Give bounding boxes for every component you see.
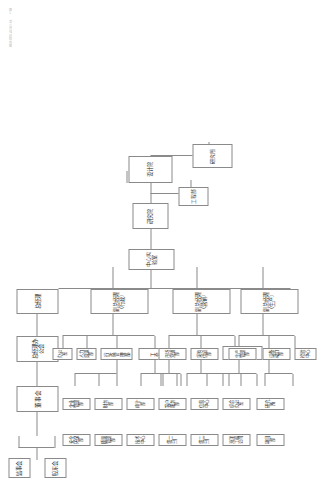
- node-box[interactable]: 第一分厂: [158, 434, 186, 446]
- connector: [264, 373, 292, 374]
- node-label: 技术中心: [135, 435, 145, 445]
- node-box[interactable]: 客户服务部: [158, 398, 186, 410]
- node-label: 安全环保部: [69, 435, 84, 445]
- connector: [160, 374, 161, 386]
- node-box[interactable]: 监事会: [8, 458, 30, 478]
- connector: [150, 229, 151, 249]
- node-box[interactable]: 综合办公室: [222, 398, 250, 410]
- node-box[interactable]: 副总经理（营销）: [172, 289, 230, 314]
- node-box[interactable]: 财务部: [94, 398, 122, 410]
- node-box[interactable]: 质量管理部: [94, 434, 122, 446]
- node-label: 总经理办公会: [31, 337, 43, 361]
- connector: [18, 436, 19, 448]
- node-box[interactable]: 工程部: [178, 187, 208, 206]
- node-label: 企业管理部: [69, 399, 84, 409]
- connector: [116, 336, 117, 348]
- node-label: 工程部: [190, 188, 195, 205]
- connector: [228, 374, 229, 386]
- node-box[interactable]: 总经理: [16, 289, 58, 314]
- connector: [62, 336, 63, 348]
- node-box[interactable]: 副总经理（生产）: [240, 289, 298, 314]
- node-label: 第一分厂: [167, 435, 177, 445]
- node-label: 办公室: [57, 349, 67, 359]
- node-box[interactable]: 人力资源部: [76, 348, 96, 360]
- connector: [262, 314, 263, 336]
- node-label: 客户服务部: [165, 399, 180, 409]
- node-box[interactable]: 海洋工程公司: [222, 434, 250, 446]
- node-label: 检验中心: [300, 349, 310, 359]
- node-box[interactable]: 研究所: [192, 144, 232, 168]
- node-label: 设计院: [147, 161, 153, 178]
- connector: [54, 436, 55, 448]
- connector: [168, 360, 169, 374]
- node-box[interactable]: 第二分厂: [190, 434, 218, 446]
- node-box[interactable]: 市场营销部: [158, 348, 186, 360]
- connector: [116, 374, 117, 386]
- connector: [160, 373, 176, 374]
- connector: [98, 374, 99, 386]
- connector: [180, 374, 181, 386]
- connector: [36, 447, 37, 460]
- node-box[interactable]: 安全环保部: [62, 434, 90, 446]
- connector: [186, 374, 187, 386]
- node-box[interactable]: 行政管理部: [100, 348, 132, 360]
- connector: [206, 374, 207, 386]
- connector: [240, 374, 241, 386]
- node-label: 信息中心: [199, 399, 209, 409]
- node-label: 行政管理部: [103, 349, 129, 359]
- connector: [154, 336, 155, 348]
- node-box[interactable]: 采购供应部: [190, 348, 218, 360]
- org-chart-page: 图1 某公司组织结构图: [0, 0, 321, 486]
- connector: [292, 374, 293, 386]
- connector: [112, 314, 113, 336]
- node-label: 第二分厂: [199, 435, 209, 445]
- node-label: 生产管理部: [235, 349, 250, 359]
- connector: [162, 374, 163, 386]
- node-box[interactable]: 信息中心: [190, 398, 218, 410]
- node-box[interactable]: 生产管理部: [228, 348, 256, 360]
- connector: [196, 267, 197, 289]
- node-label: 项目部: [265, 435, 275, 445]
- node-box[interactable]: 技术中心: [126, 434, 154, 446]
- node-label: 董事会: [34, 389, 40, 409]
- node-box[interactable]: 研究所: [256, 398, 284, 410]
- connector: [126, 171, 127, 183]
- connector: [238, 360, 239, 374]
- connector: [294, 336, 295, 348]
- connector: [268, 360, 269, 374]
- node-box[interactable]: 设备动力部: [262, 348, 290, 360]
- figure-caption: 图1 某公司组织结构图: [2, 8, 12, 47]
- node-label: 股东会: [52, 460, 58, 477]
- node-box[interactable]: 研究院: [132, 203, 168, 229]
- node-label: 质量管理部: [101, 435, 116, 445]
- connector: [268, 336, 269, 348]
- connector: [62, 335, 154, 336]
- connector: [262, 267, 263, 289]
- connector: [176, 374, 177, 386]
- connector: [222, 373, 256, 374]
- node-box[interactable]: 检验中心: [294, 348, 316, 360]
- node-box[interactable]: 股东会: [44, 458, 66, 478]
- node-label: 采购供应部: [197, 349, 212, 359]
- connector: [74, 374, 75, 386]
- connector: [256, 374, 257, 386]
- node-label: 研究所: [209, 148, 215, 165]
- node-box[interactable]: 项目部: [256, 434, 284, 446]
- org-chart-canvas: 监事会 股东会 董事会 总经理办公会 总经理 办公室 人力资源部: [0, 0, 321, 486]
- node-box[interactable]: 副总经理（行政）: [90, 289, 148, 314]
- connector: [200, 360, 201, 374]
- node-box[interactable]: 董事会: [16, 386, 58, 412]
- node-box[interactable]: 办公室: [52, 348, 72, 360]
- connector: [264, 374, 265, 386]
- node-box[interactable]: 审计部: [126, 398, 154, 410]
- node-label: 副总经理（营销）: [195, 290, 207, 313]
- connector: [36, 314, 37, 336]
- node-label: 市场营销部: [165, 349, 180, 359]
- node-box[interactable]: 设计院: [128, 156, 172, 183]
- node-box[interactable]: 中心实验室: [128, 249, 174, 270]
- connector: [36, 412, 37, 436]
- node-box[interactable]: 企业管理部: [62, 398, 90, 410]
- connector: [196, 314, 197, 336]
- connector: [74, 373, 116, 374]
- connector: [112, 267, 113, 289]
